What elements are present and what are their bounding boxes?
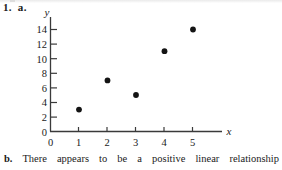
y-tick-label: 10 [37, 54, 48, 65]
y-tick-label: 14 [37, 24, 48, 35]
data-point [133, 92, 139, 98]
data-point [162, 48, 168, 54]
y-tick-label: 12 [37, 39, 48, 50]
answer-paragraph: b. There appears to be a positive linear… [4, 152, 279, 165]
y-tick-label: 2 [42, 112, 47, 123]
data-point [76, 107, 82, 113]
x-tick-label: 1 [76, 137, 81, 148]
x-tick-label: 2 [104, 137, 109, 148]
y-tick-label: 4 [42, 97, 48, 108]
answer-body-text: There appears to be a positive linear re… [22, 153, 279, 164]
x-tick-label: 0 [48, 137, 53, 148]
y-axis-tick-labels: 14 12 10 8 6 4 2 0 [37, 24, 48, 137]
data-point [190, 27, 196, 33]
scatter-data-points [76, 27, 196, 113]
y-tick-label: 8 [42, 68, 47, 79]
scatter-plot-svg: 14 12 10 8 6 4 2 0 0 1 2 3 4 5 y x [0, 0, 282, 150]
x-axis-label: x [226, 125, 232, 137]
data-point [105, 78, 111, 84]
scatter-plot-figure: 14 12 10 8 6 4 2 0 0 1 2 3 4 5 y x [0, 0, 282, 150]
y-axis-label: y [44, 6, 50, 18]
plot-axes [50, 17, 222, 132]
x-tick-label: 5 [190, 137, 195, 148]
x-tick-label: 3 [133, 137, 138, 148]
x-axis-tick-labels: 0 1 2 3 4 5 [48, 137, 195, 148]
x-tick-label: 4 [161, 137, 167, 148]
y-tick-label: 0 [42, 127, 47, 138]
answer-part-b-label: b. [4, 153, 12, 164]
y-tick-label: 6 [42, 83, 47, 94]
